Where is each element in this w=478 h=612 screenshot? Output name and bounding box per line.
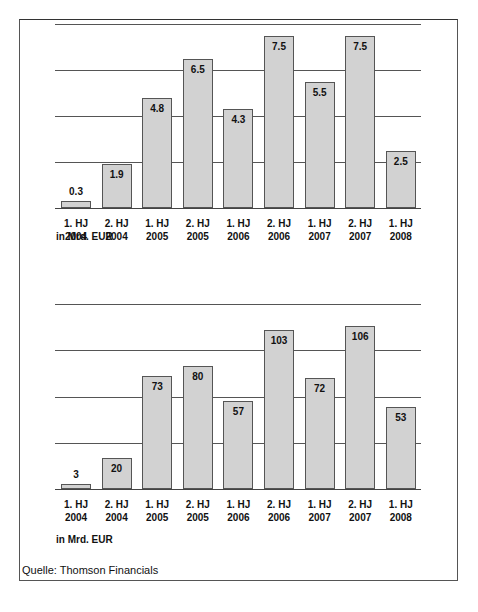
x-tick-year: 2007: [338, 230, 382, 243]
x-tick-label: 2. HJ2006: [257, 217, 301, 243]
x-tick-label: 1. HJ2008: [379, 217, 423, 243]
bar-value-label: 2.5: [381, 156, 421, 167]
bar: [305, 82, 335, 209]
bar-value-label: 72: [300, 383, 340, 394]
bar-value-label: 6.5: [178, 64, 218, 75]
x-tick-half: 1. HJ: [54, 217, 98, 230]
x-tick-half: 2. HJ: [176, 217, 220, 230]
x-tick-half: 2. HJ: [338, 498, 382, 511]
bar-value-label: 57: [218, 406, 258, 417]
x-tick-year: 2007: [298, 230, 342, 243]
x-tick-half: 1. HJ: [216, 217, 260, 230]
bar: [345, 326, 375, 489]
bar-value-label: 80: [178, 371, 218, 382]
bar: [183, 59, 213, 209]
x-tick-year: 2005: [176, 230, 220, 243]
bar-value-label: 106: [340, 331, 380, 342]
bar-value-label: 5.5: [300, 87, 340, 98]
gridline: [55, 24, 421, 25]
bar: [61, 201, 91, 208]
x-tick-half: 2. HJ: [257, 498, 301, 511]
x-tick-label: 1. HJ2005: [135, 217, 179, 243]
x-tick-year: 2004: [95, 511, 139, 524]
bar: [142, 376, 172, 489]
x-tick-label: 1. HJ2006: [216, 217, 260, 243]
unit-label-bottom: in Mrd. EUR: [56, 534, 113, 545]
x-tick-label: 2. HJ2005: [176, 498, 220, 524]
x-tick-year: 2007: [338, 511, 382, 524]
x-tick-year: 2008: [379, 511, 423, 524]
bar-value-label: 73: [137, 381, 177, 392]
x-tick-half: 2. HJ: [338, 217, 382, 230]
x-tick-year: 2004: [54, 511, 98, 524]
unit-label-top: in Mrd. EUR: [56, 231, 113, 242]
x-tick-label: 1. HJ2008: [379, 498, 423, 524]
x-tick-half: 1. HJ: [379, 217, 423, 230]
x-tick-year: 2008: [379, 230, 423, 243]
bar: [345, 36, 375, 209]
x-tick-half: 1. HJ: [216, 498, 260, 511]
x-tick-label: 2. HJ2006: [257, 498, 301, 524]
bar: [61, 484, 91, 489]
x-tick-label: 2. HJ2005: [176, 217, 220, 243]
bar: [264, 36, 294, 209]
x-tick-label: 2. HJ2007: [338, 217, 382, 243]
bar-value-label: 7.5: [340, 41, 380, 52]
bar-value-label: 0.3: [56, 186, 96, 197]
bar: [264, 330, 294, 489]
x-axis-baseline: [55, 489, 421, 490]
x-tick-label: 2. HJ2007: [338, 498, 382, 524]
bar-value-label: 3: [56, 469, 96, 480]
gridline: [55, 304, 421, 305]
x-tick-year: 2005: [135, 511, 179, 524]
x-tick-half: 2. HJ: [95, 498, 139, 511]
bar-value-label: 53: [381, 412, 421, 423]
source-caption: Quelle: Thomson Financials: [22, 564, 158, 576]
x-tick-year: 2006: [257, 511, 301, 524]
x-tick-half: 1. HJ: [54, 498, 98, 511]
x-tick-label: 1. HJ2007: [298, 217, 342, 243]
x-axis-baseline: [55, 208, 421, 209]
x-tick-half: 1. HJ: [135, 498, 179, 511]
bar-value-label: 4.3: [218, 114, 258, 125]
bar-value-label: 20: [97, 463, 137, 474]
x-tick-year: 2006: [216, 230, 260, 243]
x-tick-label: 1. HJ2004: [54, 498, 98, 524]
x-tick-half: 1. HJ: [379, 498, 423, 511]
figure-frame: [19, 19, 458, 581]
x-tick-year: 2007: [298, 511, 342, 524]
x-tick-year: 2006: [257, 230, 301, 243]
x-tick-half: 2. HJ: [95, 217, 139, 230]
x-tick-half: 2. HJ: [176, 498, 220, 511]
x-tick-year: 2006: [216, 511, 260, 524]
bar-value-label: 7.5: [259, 41, 299, 52]
bar: [142, 98, 172, 208]
x-tick-label: 1. HJ2005: [135, 498, 179, 524]
x-tick-year: 2005: [176, 511, 220, 524]
bar: [305, 378, 335, 489]
bar-value-label: 4.8: [137, 103, 177, 114]
x-tick-label: 1. HJ2006: [216, 498, 260, 524]
bar-value-label: 103: [259, 335, 299, 346]
bar: [183, 366, 213, 489]
x-tick-year: 2005: [135, 230, 179, 243]
bar-value-label: 1.9: [97, 169, 137, 180]
x-tick-half: 1. HJ: [298, 217, 342, 230]
x-tick-half: 1. HJ: [298, 498, 342, 511]
x-tick-half: 2. HJ: [257, 217, 301, 230]
x-tick-label: 1. HJ2007: [298, 498, 342, 524]
x-tick-half: 1. HJ: [135, 217, 179, 230]
x-tick-label: 2. HJ2004: [95, 498, 139, 524]
